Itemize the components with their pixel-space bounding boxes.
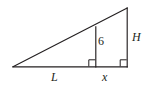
geometry-figure: 6 H L x — [0, 0, 147, 86]
triangle-hypotenuse-line — [13, 8, 127, 67]
outer-right-angle-icon — [120, 60, 127, 67]
inner-base-segment-label: x — [102, 71, 107, 83]
triangle-diagram-svg — [0, 0, 147, 86]
outer-base-segment-label: L — [51, 71, 58, 83]
inner-right-angle-icon — [89, 60, 96, 67]
outer-height-label: H — [132, 31, 141, 43]
inner-height-label: 6 — [98, 35, 104, 47]
